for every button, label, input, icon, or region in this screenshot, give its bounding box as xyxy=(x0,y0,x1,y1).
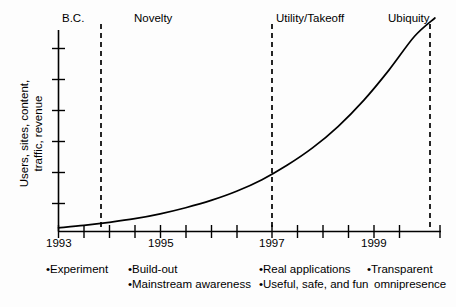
y-axis-label: Users, sites, content, traffic, revenue xyxy=(18,74,45,194)
annotation-novelty-1: •Build-out xyxy=(128,262,251,277)
y-axis-label-line1: Users, sites, content, xyxy=(18,80,30,187)
annotation-bc-1: •Experiment xyxy=(46,262,108,277)
internet-growth-chart: B.C. Novelty Utility/Takeoff Ubiquity Us… xyxy=(0,0,456,307)
y-axis-label-line2: traffic, revenue xyxy=(31,96,43,172)
annotation-ubiquity-1: •Transparent xyxy=(367,262,446,277)
phase-label-novelty: Novelty xyxy=(134,12,172,25)
x-tick-label-1999: 1999 xyxy=(361,237,387,250)
growth-curve xyxy=(59,18,435,228)
annotations-novelty: •Build-out •Mainstream awareness xyxy=(128,262,251,292)
annotations-utility: •Real applications •Useful, safe, and fu… xyxy=(259,262,369,292)
annotation-novelty-2: •Mainstream awareness xyxy=(128,277,251,292)
x-tick-label-1997: 1997 xyxy=(259,237,285,250)
annotations-bc: •Experiment xyxy=(46,262,108,277)
phase-label-ubiquity: Ubiquity xyxy=(388,12,430,25)
x-tick-label-1995: 1995 xyxy=(148,237,174,250)
annotation-utility-2: •Useful, safe, and fun xyxy=(259,277,369,292)
annotations-ubiquity: •Transparent omnipresence xyxy=(367,262,446,292)
annotation-ubiquity-2: omnipresence xyxy=(367,277,446,292)
phase-label-utility: Utility/Takeoff xyxy=(276,12,344,25)
phase-label-bc: B.C. xyxy=(62,12,84,25)
chart-canvas xyxy=(0,0,456,307)
annotation-utility-1: •Real applications xyxy=(259,262,369,277)
x-tick-label-1993: 1993 xyxy=(46,237,72,250)
